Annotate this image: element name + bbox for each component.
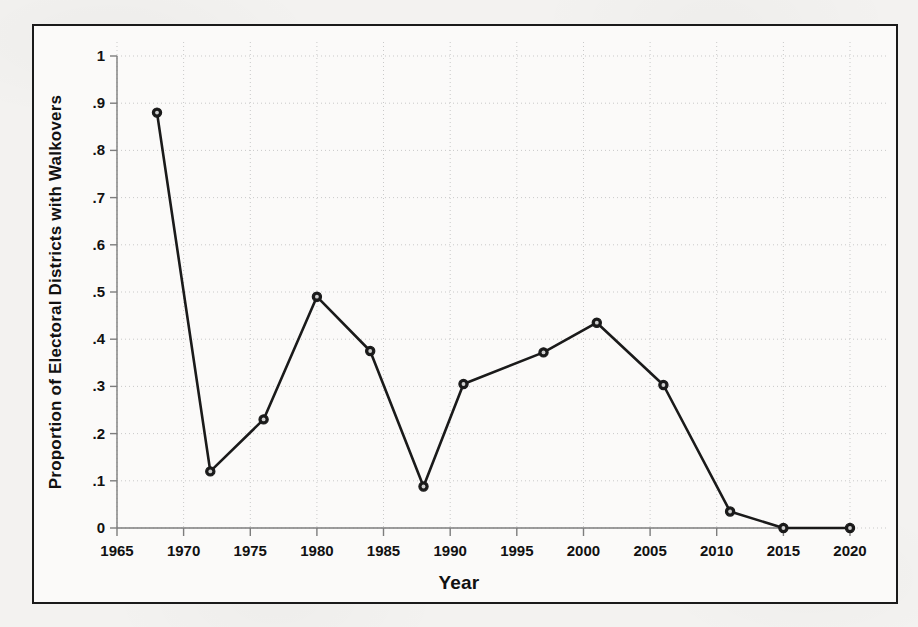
y-tick-label: .8 (55, 141, 105, 158)
y-tick-label: 0 (55, 519, 105, 536)
x-tick-label: 2005 (620, 542, 680, 559)
x-tick-label: 1985 (354, 542, 414, 559)
y-tick-label: .3 (55, 377, 105, 394)
figure-page: Proportion of Electoral Districts with W… (0, 0, 918, 627)
figure-frame (32, 24, 898, 604)
x-axis-title: Year (0, 572, 918, 594)
x-tick-label: 1970 (154, 542, 214, 559)
x-tick-label: 1995 (487, 542, 547, 559)
x-tick-label: 1975 (220, 542, 280, 559)
y-tick-label: 1 (55, 47, 105, 64)
y-tick-label: .4 (55, 330, 105, 347)
y-tick-label: .6 (55, 236, 105, 253)
x-tick-label: 1965 (87, 542, 147, 559)
x-tick-label: 1990 (420, 542, 480, 559)
x-tick-label: 1980 (287, 542, 347, 559)
y-tick-label: .9 (55, 94, 105, 111)
x-tick-label: 2015 (753, 542, 813, 559)
x-tick-label: 2010 (687, 542, 747, 559)
y-tick-label: .1 (55, 472, 105, 489)
y-tick-label: .2 (55, 425, 105, 442)
y-tick-label: .7 (55, 189, 105, 206)
x-tick-label: 2000 (553, 542, 613, 559)
x-tick-label: 2020 (820, 542, 880, 559)
y-tick-label: .5 (55, 283, 105, 300)
